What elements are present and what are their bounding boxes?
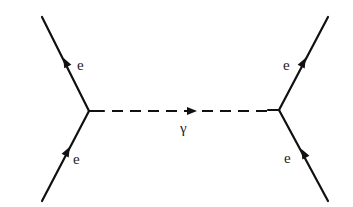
feynman-diagram: e e e e γ [0,0,353,207]
label-photon: γ [179,120,187,136]
label-left-incoming: e [73,151,80,167]
arrow-photon-icon [187,107,197,115]
label-left-outgoing: e [77,57,84,73]
label-right-incoming: e [284,150,291,166]
label-right-outgoing: e [283,57,290,73]
left-incoming-electron-line [42,111,89,201]
